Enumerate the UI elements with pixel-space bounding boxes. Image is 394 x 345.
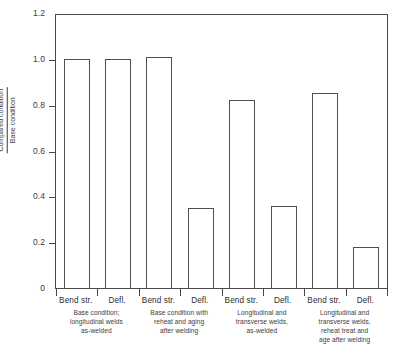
x-axis-group-caption: Base condition;longitudinal weldsas-weld… — [55, 308, 138, 335]
y-axis-tick-label: 0 — [40, 283, 45, 293]
x-axis-bar-labels: Bend str.Defl. — [303, 296, 386, 305]
x-axis-group-caption-line: reheat treat and — [303, 326, 386, 335]
x-axis-group-caption-line: Base condition with — [138, 308, 221, 317]
x-axis-tick-mark — [222, 289, 223, 296]
x-axis-group-caption-line: transverse welds, — [221, 317, 304, 326]
y-axis-denominator: Base condition — [8, 87, 18, 154]
x-axis-group-caption-line: as-welded — [221, 326, 304, 335]
bar — [271, 206, 297, 289]
y-axis-tick-label: 0.2 — [33, 237, 45, 247]
x-axis-group: Bend str.Defl.Base condition withreheat … — [138, 296, 221, 335]
x-axis-group: Bend str.Defl.Longitudinal andtransverse… — [221, 296, 304, 335]
y-axis-title: Compared condition Base condition — [0, 35, 17, 205]
x-axis-bar-label: Defl. — [179, 296, 220, 305]
bar — [105, 59, 131, 288]
y-axis-tick-label: 0.8 — [33, 100, 45, 110]
x-axis-group-caption-line: age after welding — [303, 335, 386, 344]
x-axis-bar-labels: Bend str.Defl. — [55, 296, 138, 305]
y-axis-tick-label: 1.2 — [33, 8, 45, 18]
bar-chart: 1.21.00.80.60.40.20 Compared condition B… — [0, 0, 394, 345]
y-axis-tick-mark — [49, 243, 55, 244]
x-axis-bar-label: Bend str. — [303, 296, 344, 305]
x-axis-group-caption-line: longitudinal welds — [55, 317, 138, 326]
y-axis-tick-label: 1.0 — [33, 54, 45, 64]
y-axis-fraction: Compared condition Base condition — [0, 87, 17, 154]
x-axis-tick-mark — [304, 289, 305, 296]
x-axis-bar-label: Bend str. — [221, 296, 262, 305]
x-axis-tick-mark — [139, 289, 140, 296]
y-axis-numerator: Compared condition — [0, 87, 8, 154]
x-axis-bar-label: Defl. — [345, 296, 386, 305]
y-axis-tick-mark — [49, 152, 55, 153]
x-axis-bar-label: Bend str. — [138, 296, 179, 305]
x-axis-bar-label: Defl. — [262, 296, 303, 305]
x-axis-group-caption-line: Longitudinal and — [303, 308, 386, 317]
x-axis-tick-mark — [97, 289, 98, 296]
x-axis-group-caption-line: reheat and aging — [138, 317, 221, 326]
y-axis-tick-label: 0.6 — [33, 146, 45, 156]
bar — [312, 93, 338, 288]
x-axis-bar-labels: Bend str.Defl. — [221, 296, 304, 305]
x-axis-group-caption: Longitudinal andtransverse welds,reheat … — [303, 308, 386, 344]
x-axis-group: Bend str.Defl.Longitudinal andtransverse… — [303, 296, 386, 344]
x-axis-bar-label: Bend str. — [55, 296, 96, 305]
x-axis-bar-labels: Bend str.Defl. — [138, 296, 221, 305]
x-axis-tick-mark — [346, 289, 347, 296]
x-axis-tick-mark — [56, 289, 57, 296]
bar — [188, 208, 214, 288]
x-axis-group-caption-line: Base condition; — [55, 308, 138, 317]
x-axis-group-caption-line: as-welded — [55, 326, 138, 335]
bar — [229, 100, 255, 288]
x-axis-group-caption-line: after welding — [138, 326, 221, 335]
x-axis-group: Bend str.Defl.Base condition;longitudina… — [55, 296, 138, 335]
x-axis-bar-label: Defl. — [96, 296, 137, 305]
x-axis-tick-mark — [263, 289, 264, 296]
x-axis-group-caption-line: Longitudinal and — [221, 308, 304, 317]
x-axis-group-caption: Base condition withreheat and agingafter… — [138, 308, 221, 335]
x-axis-group-caption-line: transverse welds, — [303, 317, 386, 326]
x-axis-tick-mark — [180, 289, 181, 296]
bar — [146, 57, 172, 288]
bar — [64, 59, 90, 288]
y-axis-tick-mark — [49, 197, 55, 198]
x-axis-tick-mark — [387, 289, 388, 296]
y-axis-tick-mark — [49, 60, 55, 61]
y-axis-tick-mark — [49, 106, 55, 107]
x-axis-group-caption: Longitudinal andtransverse welds,as-weld… — [221, 308, 304, 335]
bars-layer — [56, 15, 387, 288]
y-axis-tick-label: 0.4 — [33, 191, 45, 201]
bar — [353, 247, 379, 288]
